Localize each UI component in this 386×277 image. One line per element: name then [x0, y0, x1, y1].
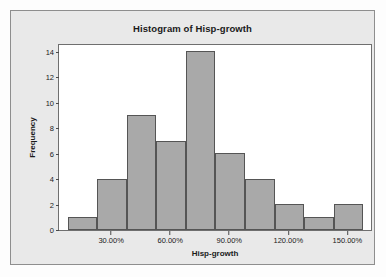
x-axis-tick: 150.00% — [333, 231, 363, 245]
y-axis-tick: 14 — [46, 42, 59, 60]
x-axis-tick-label: 150.00% — [333, 236, 363, 245]
y-axis-title-label: Frequency — [28, 117, 37, 157]
x-axis-tick-mark — [170, 231, 171, 235]
histogram-bar — [186, 51, 216, 230]
x-axis-tick: 60.00% — [157, 231, 182, 245]
x-axis-tick-mark — [288, 231, 289, 235]
x-axis-tick-label: 90.00% — [217, 236, 242, 245]
x-axis-tick-mark — [229, 231, 230, 235]
x-axis-title: Hisp-growth — [58, 249, 372, 258]
histogram-bar — [127, 115, 157, 230]
y-axis-tick: 4 — [50, 170, 59, 188]
y-axis-tick: 8 — [50, 119, 59, 137]
chart-frame: Histogram of Hisp-growth Frequency 02468… — [10, 10, 375, 265]
histogram-bar — [97, 179, 127, 230]
y-axis-title: Frequency — [25, 44, 39, 231]
x-axis-tick: 90.00% — [217, 231, 242, 245]
histogram-bar — [334, 204, 364, 230]
x-axis-tick-label: 120.00% — [273, 236, 303, 245]
y-axis-tick: 6 — [50, 144, 59, 162]
x-axis-tick-label: 60.00% — [157, 236, 182, 245]
y-axis-tick-label: 10 — [46, 99, 56, 108]
histogram-bar — [156, 141, 186, 230]
y-axis-tick: 2 — [50, 195, 59, 213]
histogram-bar — [304, 217, 334, 230]
x-axis-tick: 120.00% — [273, 231, 303, 245]
x-axis-tick-mark — [111, 231, 112, 235]
y-axis-tick-label: 14 — [46, 48, 56, 57]
histogram-screenshot: Histogram of Hisp-growth Frequency 02468… — [0, 0, 386, 277]
x-axis-tick-label: 30.00% — [98, 236, 123, 245]
y-axis-tick: 10 — [46, 93, 59, 111]
y-axis-tick-label: 12 — [46, 73, 56, 82]
plot-area: 02468101214 — [58, 44, 372, 231]
histogram-bars — [59, 45, 371, 230]
histogram-bar — [275, 204, 305, 230]
chart-title: Histogram of Hisp-growth — [11, 23, 374, 34]
x-axis-tick: 30.00% — [98, 231, 123, 245]
histogram-bar — [245, 179, 275, 230]
y-axis-tick: 12 — [46, 68, 59, 86]
histogram-bar — [68, 217, 98, 230]
histogram-bar — [215, 153, 245, 230]
x-axis-tick-mark — [347, 231, 348, 235]
